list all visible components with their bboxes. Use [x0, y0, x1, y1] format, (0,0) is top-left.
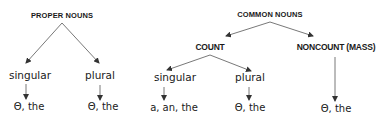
proper-singular-articles: Θ, the	[14, 101, 45, 112]
count-singular-articles: a, an, the	[150, 102, 198, 113]
noncount-title: NONCOUNT (MASS)	[297, 42, 376, 52]
arrow-common-to-noncount	[270, 22, 313, 36]
noncount-articles: Θ, the	[321, 103, 352, 114]
proper-singular-label: singular	[9, 69, 51, 81]
arrow-proper-to-plural	[62, 23, 99, 63]
common-nouns-title: COMMON NOUNS	[237, 10, 302, 19]
count-plural-articles: Θ, the	[235, 102, 266, 113]
count-plural-label: plural	[235, 71, 265, 83]
arrow-proper-to-singular	[26, 23, 62, 63]
proper-plural-articles: Θ, the	[88, 101, 119, 112]
count-title: COUNT	[195, 42, 224, 52]
count-singular-label: singular	[154, 71, 196, 83]
arrow-common-to-count	[226, 22, 270, 36]
arrow-count-to-singular	[167, 55, 210, 70]
noun-article-diagram: PROPER NOUNS singular plural Θ, the Θ, t…	[0, 0, 384, 124]
proper-plural-label: plural	[85, 69, 115, 81]
proper-nouns-title: PROPER NOUNS	[31, 11, 93, 20]
arrow-count-to-plural	[210, 55, 251, 71]
